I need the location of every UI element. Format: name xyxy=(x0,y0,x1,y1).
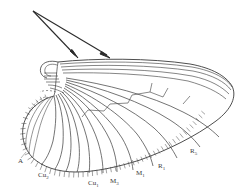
vein-label-Cu2: Cu2 xyxy=(38,172,49,179)
vein-label-A: A xyxy=(18,158,23,165)
vein-label-R5: R5 xyxy=(190,148,197,155)
arrow-costal-upper xyxy=(33,11,78,58)
vein-label-Cu1: Cu1 xyxy=(88,180,99,187)
wing-venation-figure: A Cu2 Cu1 M3 M1 R1 R5 xyxy=(0,0,250,192)
wing-fringe xyxy=(20,95,205,178)
longitudinal-veins xyxy=(41,78,219,173)
wing-base-articulation xyxy=(40,61,64,93)
vein-label-R1: R1 xyxy=(158,163,165,170)
wing-drawing xyxy=(0,0,250,192)
vein-label-M1: M1 xyxy=(136,170,145,177)
vein-label-M3: M3 xyxy=(110,178,119,185)
costal-vein-bundle xyxy=(60,62,232,99)
annotation-arrows xyxy=(33,11,110,58)
